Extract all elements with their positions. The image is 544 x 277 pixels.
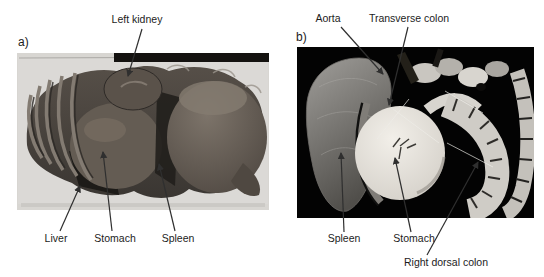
right-dorsal-colon-label: Right dorsal colon — [404, 256, 488, 268]
transverse-colon-label: Transverse colon — [369, 12, 449, 24]
left-kidney-shape — [104, 68, 162, 110]
panel-b-tag: b) — [296, 31, 307, 44]
stomach-a-label: Stomach — [94, 232, 135, 244]
left-kidney-label: Left kidney — [112, 13, 163, 25]
panel-a-photo — [17, 53, 269, 210]
liver-label: Liver — [45, 232, 68, 244]
block-reflection — [21, 203, 265, 207]
stomach-a-highlight — [84, 118, 126, 142]
stomach-a-shape — [70, 103, 162, 189]
stomach-b-label: Stomach — [393, 232, 434, 244]
figure-canvas: a) — [0, 0, 544, 277]
panel-a-tag: a) — [18, 36, 29, 49]
specimen-a-shape — [27, 65, 267, 198]
right-mass-highlight — [179, 81, 247, 115]
aorta-label: Aorta — [315, 12, 340, 24]
top-dark-bar — [114, 53, 269, 62]
spleen-b-label: Spleen — [328, 232, 361, 244]
panel-b-photo — [297, 47, 534, 218]
spleen-a-label: Spleen — [162, 232, 195, 244]
panel-a-specimen-graphic — [17, 53, 269, 210]
panel-b-specimen-graphic — [297, 47, 534, 218]
